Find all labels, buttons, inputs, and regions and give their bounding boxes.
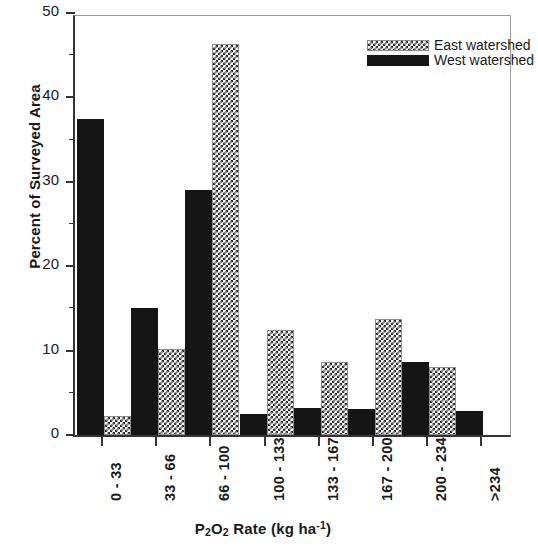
bar-west-5 <box>348 409 375 435</box>
x-tick-label-5: 167 - 200 <box>379 411 395 501</box>
x-tick-mark-4 <box>318 437 320 446</box>
x-tick-label-3: 100 - 133 <box>271 411 287 501</box>
x-tick-label-7: >234 <box>487 411 503 501</box>
bar-west-1 <box>131 308 158 435</box>
bar-west-7 <box>456 411 483 435</box>
x-tick-label-0: 0 - 33 <box>108 411 124 501</box>
y-tick-mark-minor <box>69 54 75 55</box>
y-tick-mark <box>66 350 75 352</box>
bar-west-2 <box>185 190 212 435</box>
bar-west-6 <box>402 362 429 435</box>
bar-east-2 <box>212 44 239 435</box>
x-tick-label-2: 66 - 100 <box>216 411 232 501</box>
plot-area: 01020304050 East watershed West watershe… <box>73 15 511 437</box>
y-tick-mark <box>66 181 75 183</box>
x-axis-title: P2O2 Rate (kg ha-1) <box>0 519 526 538</box>
chart-legend: East watershed West watershed <box>367 38 538 68</box>
y-tick-mark <box>66 12 75 14</box>
y-tick-label: 50 <box>23 2 59 19</box>
x-axis-title-rate: Rate (kg ha <box>229 520 316 537</box>
y-tick-label: 0 <box>23 424 59 441</box>
y-tick-mark-minor <box>69 139 75 140</box>
bar-west-3 <box>240 414 267 435</box>
x-tick-mark-2 <box>209 437 211 446</box>
bar-west-0 <box>77 119 104 436</box>
x-tick-mark-1 <box>155 437 157 446</box>
x-tick-mark-3 <box>264 437 266 446</box>
x-tick-label-6: 200 - 234 <box>433 411 449 501</box>
y-tick-label: 10 <box>23 340 59 357</box>
y-tick-label: 30 <box>23 171 59 188</box>
y-tick-mark <box>66 265 75 267</box>
x-tick-mark-5 <box>372 437 374 446</box>
y-tick-mark-minor <box>69 307 75 308</box>
x-tick-label-4: 133 - 167 <box>325 411 341 501</box>
legend-label-east: East watershed <box>434 38 531 52</box>
y-tick-mark-minor <box>69 223 75 224</box>
y-tick-label: 20 <box>23 255 59 272</box>
y-tick-mark <box>66 434 75 436</box>
x-axis-title-sup: -1 <box>316 519 326 531</box>
x-axis-title-p: P <box>195 520 205 537</box>
legend-label-west: West watershed <box>434 53 534 67</box>
legend-item-west: West watershed <box>367 53 538 67</box>
x-tick-label-1: 33 - 66 <box>162 411 178 501</box>
legend-item-east: East watershed <box>367 38 538 52</box>
x-axis-title-o: O <box>211 520 223 537</box>
x-tick-mark-6 <box>426 437 428 446</box>
legend-swatch-west-icon <box>367 55 429 66</box>
y-tick-mark <box>66 96 75 98</box>
x-axis-title-close: ) <box>326 520 331 537</box>
y-tick-label: 40 <box>23 86 59 103</box>
x-tick-mark-0 <box>101 437 103 446</box>
x-tick-mark-7 <box>480 437 482 446</box>
y-tick-mark-minor <box>69 392 75 393</box>
legend-swatch-east-icon <box>367 40 429 51</box>
bar-west-4 <box>294 408 321 435</box>
